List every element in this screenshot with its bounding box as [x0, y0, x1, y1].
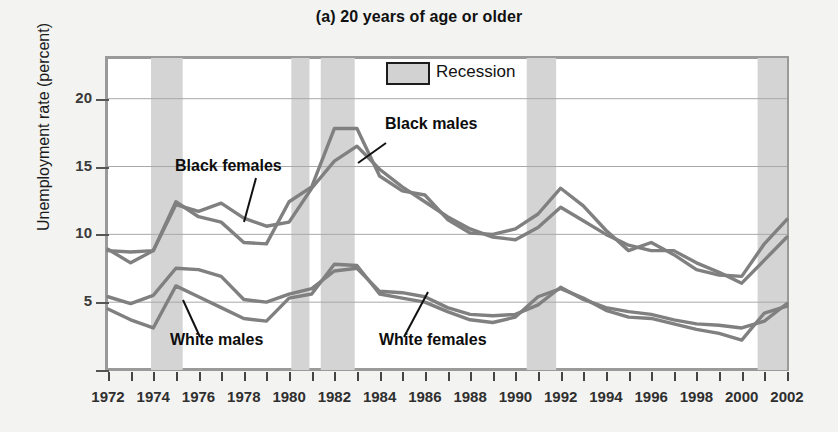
annotation-white-males: White males: [170, 331, 263, 349]
x-tick-label: 2000: [725, 388, 758, 405]
x-tick-mark: [696, 372, 698, 381]
x-tick-mark: [764, 372, 766, 381]
x-tick-label: 1988: [453, 388, 486, 405]
x-tick-mark: [561, 372, 563, 381]
x-tick-mark: [221, 372, 223, 381]
x-tick-mark: [357, 372, 359, 381]
x-tick-mark: [470, 372, 472, 381]
x-tick-label: 1974: [137, 388, 170, 405]
recession-band: [321, 58, 355, 370]
x-tick-label: 1972: [91, 388, 124, 405]
annotation-black-males: Black males: [385, 115, 478, 133]
x-tick-mark: [425, 372, 427, 381]
y-tick-mark: [96, 167, 109, 169]
annotation-white-females: White females: [379, 331, 487, 349]
x-tick-mark: [244, 372, 246, 381]
y-tick-mark: [96, 302, 109, 304]
y-tick-label: 5: [58, 292, 92, 309]
x-tick-label: 1990: [499, 388, 532, 405]
recession-legend-swatch: [386, 62, 430, 85]
y-tick-label: 15: [58, 157, 92, 174]
x-tick-mark: [312, 372, 314, 381]
annotation-black-females: Black females: [175, 157, 282, 175]
x-tick-label: 1978: [227, 388, 260, 405]
x-tick-mark: [629, 372, 631, 381]
x-tick-mark: [651, 372, 653, 381]
series-line-black-males: [108, 129, 787, 277]
x-tick-mark: [448, 372, 450, 381]
recession-legend-label: Recession: [436, 62, 515, 82]
x-tick-mark: [176, 372, 178, 381]
x-tick-mark: [402, 372, 404, 381]
x-tick-mark: [108, 372, 110, 381]
x-tick-label: 1996: [635, 388, 668, 405]
x-tick-mark: [131, 372, 133, 381]
x-tick-mark: [199, 372, 201, 381]
x-tick-mark: [266, 372, 268, 381]
x-tick-mark: [289, 372, 291, 381]
y-tick-mark: [96, 234, 109, 236]
x-tick-label: 1998: [680, 388, 713, 405]
leader-line-black-females: [244, 178, 256, 222]
x-tick-mark: [153, 372, 155, 381]
x-tick-label: 1992: [544, 388, 577, 405]
series-line-white-females: [108, 268, 787, 328]
x-tick-mark: [719, 372, 721, 381]
x-tick-mark: [583, 372, 585, 381]
x-tick-label: 2002: [770, 388, 803, 405]
unemployment-line-chart: (a) 20 years of age or older Unemploymen…: [0, 0, 838, 432]
x-tick-label: 1980: [272, 388, 305, 405]
x-tick-label: 1984: [363, 388, 396, 405]
x-tick-label: 1994: [589, 388, 622, 405]
y-tick-label: 20: [58, 89, 92, 106]
x-tick-mark: [538, 372, 540, 381]
x-tick-label: 1976: [182, 388, 215, 405]
y-tick-label: 10: [58, 224, 92, 241]
x-tick-mark: [787, 372, 789, 381]
x-tick-label: 1986: [408, 388, 441, 405]
x-tick-mark: [515, 372, 517, 381]
x-tick-label: 1982: [318, 388, 351, 405]
x-tick-mark: [606, 372, 608, 381]
x-tick-mark: [334, 372, 336, 381]
x-tick-mark: [380, 372, 382, 381]
x-tick-mark: [493, 372, 495, 381]
x-tick-mark: [742, 372, 744, 381]
y-tick-mark: [96, 99, 109, 101]
x-tick-mark: [674, 372, 676, 381]
